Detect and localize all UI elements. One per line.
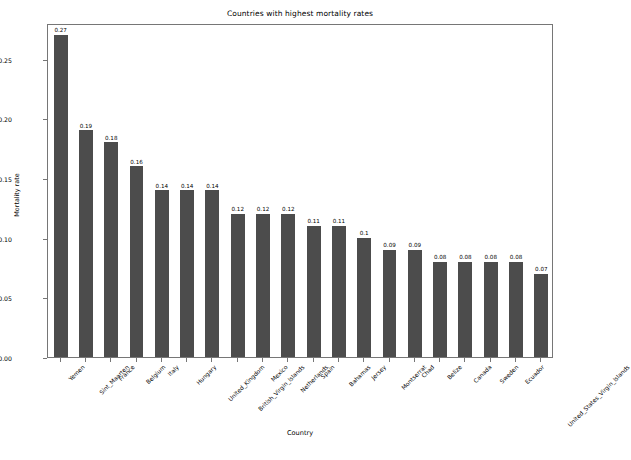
bar-value-label: 0.18 — [105, 135, 117, 142]
bar-group[interactable]: 0.09 — [383, 241, 397, 357]
x-tick-mark — [515, 358, 516, 362]
x-tick-label: Hungary — [196, 364, 218, 386]
x-tick-mark — [110, 358, 111, 362]
x-tick-mark — [439, 358, 440, 362]
chart-title: Countries with highest mortality rates — [47, 9, 553, 18]
x-tick-label: Yemen — [67, 364, 85, 382]
x-tick-mark — [85, 358, 86, 362]
x-tick-label: Sweden — [499, 364, 520, 385]
x-tick-mark — [389, 358, 390, 362]
bar-rect[interactable] — [130, 166, 144, 357]
bar-rect[interactable] — [205, 190, 219, 357]
bar-group[interactable]: 0.16 — [130, 157, 144, 357]
bar-group[interactable]: 0.08 — [433, 253, 447, 357]
bar-rect[interactable] — [180, 190, 194, 357]
bar-value-label: 0.09 — [409, 242, 421, 249]
bar-value-label: 0.08 — [459, 254, 471, 261]
x-tick-label: Jersey — [371, 364, 388, 381]
bar-group[interactable]: 0.14 — [205, 181, 219, 357]
bar-value-label: 0.14 — [206, 183, 218, 190]
bar-value-label: 0.14 — [156, 183, 168, 190]
bar-rect[interactable] — [332, 226, 346, 357]
bar-group[interactable]: 0.12 — [281, 205, 295, 357]
bar-value-label: 0.16 — [130, 159, 142, 166]
x-tick-mark — [161, 358, 162, 362]
bar-group[interactable]: 0.12 — [256, 205, 270, 357]
y-tick-label: 0.05 — [0, 295, 16, 302]
bar-rect[interactable] — [79, 130, 93, 357]
x-tick-mark — [490, 358, 491, 362]
bar-group[interactable]: 0.27 — [54, 26, 68, 357]
plot-area: 0.270.190.180.160.140.140.140.120.120.12… — [47, 24, 553, 358]
bar-group[interactable]: 0.14 — [180, 181, 194, 357]
bar-value-label: 0.12 — [282, 206, 294, 213]
bar-group[interactable]: 0.14 — [155, 181, 169, 357]
x-tick-label: Ecuador — [524, 364, 545, 385]
bar-rect[interactable] — [534, 274, 548, 358]
bar-rect[interactable] — [256, 214, 270, 357]
bar-group[interactable]: 0.12 — [231, 205, 245, 357]
x-tick-label: Italy — [167, 364, 180, 377]
bar-value-label: 0.27 — [54, 27, 66, 34]
bar-value-label: 0.08 — [510, 254, 522, 261]
bar-rect[interactable] — [307, 226, 321, 357]
bar-rect[interactable] — [433, 262, 447, 357]
bar-group[interactable]: 0.08 — [509, 253, 523, 357]
x-axis-label: Country — [47, 429, 553, 437]
bar-value-label: 0.1 — [360, 230, 369, 237]
y-tick-label: 0.15 — [0, 176, 16, 183]
y-tick-label: 0.20 — [0, 116, 16, 123]
bar-group[interactable]: 0.19 — [79, 121, 93, 357]
x-tick-mark — [211, 358, 212, 362]
x-tick-mark — [313, 358, 314, 362]
bar-rect[interactable] — [155, 190, 169, 357]
bar-value-label: 0.08 — [434, 254, 446, 261]
y-tick-label: 0.25 — [0, 56, 16, 63]
bar-group[interactable]: 0.11 — [307, 217, 321, 357]
bar-rect[interactable] — [104, 142, 118, 357]
x-tick-mark — [287, 358, 288, 362]
bar-value-label: 0.11 — [307, 218, 319, 225]
x-tick-label: Canada — [473, 364, 493, 384]
bar-rect[interactable] — [281, 214, 295, 357]
y-tick-label: 0.10 — [0, 235, 16, 242]
bar-value-label: 0.14 — [181, 183, 193, 190]
bar-group[interactable]: 0.11 — [332, 217, 346, 357]
bar-group[interactable]: 0.1 — [357, 229, 371, 357]
y-tick-label: 0.00 — [0, 355, 16, 362]
bar-group[interactable]: 0.07 — [534, 265, 548, 358]
y-axis-label: Mortality rate — [13, 145, 21, 245]
x-tick-mark — [136, 358, 137, 362]
x-tick-mark — [414, 358, 415, 362]
x-tick-mark — [338, 358, 339, 362]
x-tick-label: Bahamas — [348, 364, 372, 388]
x-tick-mark — [237, 358, 238, 362]
x-tick-mark — [186, 358, 187, 362]
bar-rect[interactable] — [509, 262, 523, 357]
bar-rect[interactable] — [408, 250, 422, 357]
bar-group[interactable]: 0.08 — [484, 253, 498, 357]
bar-value-label: 0.19 — [80, 123, 92, 130]
x-tick-label: Belize — [446, 364, 463, 381]
bar-value-label: 0.07 — [535, 266, 547, 273]
bar-group[interactable]: 0.18 — [104, 133, 118, 357]
bar-rect[interactable] — [357, 238, 371, 357]
x-tick-mark — [363, 358, 364, 362]
bar-rect[interactable] — [458, 262, 472, 357]
x-tick-label: France — [118, 364, 136, 382]
bar-group[interactable]: 0.09 — [408, 241, 422, 357]
bar-value-label: 0.12 — [232, 206, 244, 213]
x-tick-label: United_Kingdom — [228, 364, 266, 402]
bar-group[interactable]: 0.08 — [458, 253, 472, 357]
x-tick-mark — [540, 358, 541, 362]
x-tick-mark — [60, 358, 61, 362]
bar-rect[interactable] — [54, 35, 68, 357]
bar-rect[interactable] — [231, 214, 245, 357]
bar-rect[interactable] — [484, 262, 498, 357]
y-tick-mark — [43, 358, 47, 359]
bar-rect[interactable] — [383, 250, 397, 357]
bar-value-label: 0.11 — [333, 218, 345, 225]
x-tick-mark — [464, 358, 465, 362]
bar-value-label: 0.12 — [257, 206, 269, 213]
